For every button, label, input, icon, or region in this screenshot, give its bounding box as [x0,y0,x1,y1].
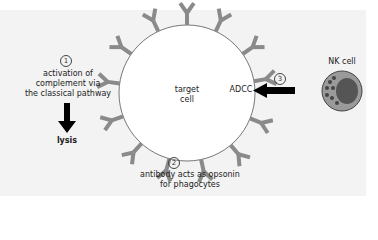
step1-text: activation of complement via the classic… [18,69,118,99]
adcc-label: ADCC [228,85,254,95]
nk-cell [322,71,362,111]
target-cell-label: target cell [167,85,207,105]
step3-number: 3 [274,73,286,85]
step2-text: antibody acts as opsonin for phagocytes [120,170,260,190]
adcc-arrow [253,83,295,98]
lysis-label: lysis [52,136,82,146]
step2-number: 2 [168,157,180,169]
lysis-arrow [58,103,76,133]
nk-cell-label: NK cell [322,57,362,67]
step1-number: 1 [60,55,72,67]
